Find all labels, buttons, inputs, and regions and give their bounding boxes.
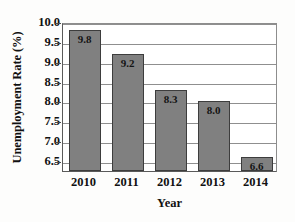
x-axis-tick-label: 2014 bbox=[234, 175, 277, 190]
bar: 8.0 bbox=[198, 101, 230, 171]
bar-value-label: 9.2 bbox=[113, 57, 143, 69]
y-axis-tick-mark bbox=[55, 23, 61, 24]
bar: 8.3 bbox=[155, 90, 187, 171]
x-axis-title: Year bbox=[62, 196, 277, 211]
bar-value-label: 8.3 bbox=[156, 93, 186, 105]
plot-area: 9.89.28.38.06.6 bbox=[62, 23, 277, 172]
bars-layer: 9.89.28.38.06.6 bbox=[63, 24, 276, 171]
bar-value-label: 9.8 bbox=[70, 33, 100, 45]
bar: 9.8 bbox=[69, 30, 101, 171]
y-axis-tick-mark bbox=[55, 43, 61, 44]
bar: 6.6 bbox=[241, 157, 273, 171]
y-axis-tick-mark bbox=[55, 142, 61, 143]
x-axis-tick-label: 2012 bbox=[148, 175, 191, 190]
bar-value-label: 6.6 bbox=[242, 160, 272, 172]
bar: 9.2 bbox=[112, 54, 144, 171]
x-axis-tick-label: 2010 bbox=[62, 175, 105, 190]
x-axis-tick-labels: 20102011201220132014 bbox=[62, 175, 277, 193]
y-axis-tick-mark bbox=[55, 162, 61, 163]
y-axis-tick-labels: 6.57.07.58.08.59.09.510.0 bbox=[22, 16, 60, 174]
bar-chart-figure: Unemployment Rate (%) 6.57.07.58.08.59.0… bbox=[0, 0, 295, 222]
y-axis-tick-mark bbox=[55, 102, 61, 103]
y-axis-tick-mark bbox=[55, 83, 61, 84]
bar-value-label: 8.0 bbox=[199, 104, 229, 116]
x-axis-tick-label: 2013 bbox=[191, 175, 234, 190]
x-axis-tick-label: 2011 bbox=[105, 175, 148, 190]
y-axis-tick-mark bbox=[55, 122, 61, 123]
y-axis-tick-mark bbox=[55, 63, 61, 64]
